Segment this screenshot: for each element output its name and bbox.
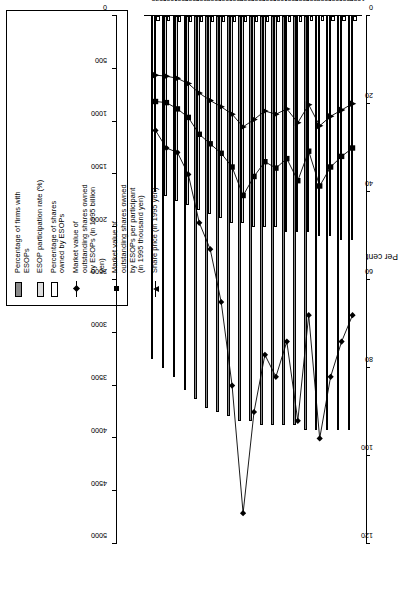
- marker-diamond-icon: [262, 352, 268, 358]
- line-series-2: [153, 99, 355, 198]
- marker-diamond-icon: [152, 127, 158, 133]
- marker-triangle-icon: [174, 75, 181, 82]
- marker-diamond-icon: [229, 383, 235, 389]
- marker-triangle-icon: [207, 97, 214, 104]
- marker-diamond-icon: [251, 409, 257, 415]
- marker-square-icon: [262, 159, 267, 164]
- marker-diamond-icon: [218, 299, 224, 305]
- marker-diamond-icon: [174, 149, 180, 155]
- marker-diamond-icon: [317, 435, 323, 441]
- marker-square-icon: [164, 100, 169, 105]
- marker-square-icon: [240, 193, 245, 198]
- marker-diamond-icon: [306, 312, 312, 318]
- marker-triangle-icon: [164, 73, 171, 80]
- marker-triangle-icon: [262, 108, 269, 115]
- marker-triangle-icon: [218, 103, 225, 110]
- marker-triangle-icon: [350, 100, 357, 107]
- line-series-1: [152, 127, 355, 516]
- marker-square-icon: [317, 183, 322, 188]
- marker-square-icon: [339, 154, 344, 159]
- marker-diamond-icon: [349, 312, 355, 318]
- marker-diamond-icon: [185, 171, 191, 177]
- marker-diamond-icon: [207, 246, 213, 252]
- marker-diamond-icon: [295, 418, 301, 424]
- marker-square-icon: [197, 132, 202, 137]
- marker-triangle-icon: [229, 111, 236, 118]
- marker-square-icon: [295, 178, 300, 183]
- marker-triangle-icon: [306, 101, 313, 108]
- series-line: [156, 102, 353, 196]
- marker-triangle-icon: [295, 119, 302, 126]
- marker-triangle-icon: [328, 113, 335, 120]
- marker-square-icon: [175, 106, 180, 111]
- marker-square-icon: [219, 151, 224, 156]
- marker-square-icon: [208, 141, 213, 146]
- marker-square-icon: [273, 165, 278, 170]
- marker-square-icon: [186, 115, 191, 120]
- marker-diamond-icon: [338, 339, 344, 345]
- marker-square-icon: [350, 145, 355, 150]
- marker-square-icon: [284, 156, 289, 161]
- marker-diamond-icon: [284, 339, 290, 345]
- marker-diamond-icon: [328, 374, 334, 380]
- marker-triangle-icon: [284, 106, 291, 113]
- marker-square-icon: [251, 174, 256, 179]
- marker-diamond-icon: [163, 145, 169, 151]
- marker-diamond-icon: [196, 220, 202, 226]
- marker-triangle-icon: [339, 107, 346, 114]
- marker-triangle-icon: [273, 111, 280, 118]
- marker-triangle-icon: [240, 123, 247, 130]
- marker-square-icon: [306, 149, 311, 154]
- marker-square-icon: [153, 99, 158, 104]
- marker-diamond-icon: [240, 510, 246, 516]
- marker-diamond-icon: [273, 374, 279, 380]
- line-series-3: [153, 72, 357, 131]
- series-line: [156, 130, 353, 513]
- marker-triangle-icon: [153, 72, 160, 79]
- marker-square-icon: [328, 164, 333, 169]
- marker-square-icon: [229, 164, 234, 169]
